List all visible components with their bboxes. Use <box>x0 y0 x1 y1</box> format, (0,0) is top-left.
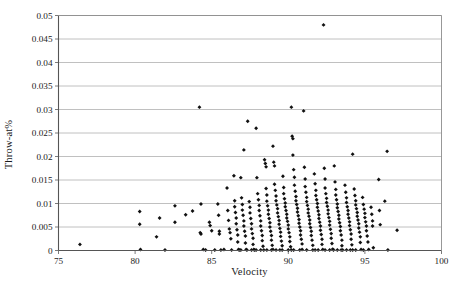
data-point <box>227 227 231 231</box>
data-point <box>294 195 298 199</box>
data-point <box>335 202 339 206</box>
data-point <box>233 199 237 203</box>
data-point <box>333 180 337 184</box>
data-point <box>240 196 244 200</box>
data-point <box>232 174 236 178</box>
data-point <box>285 212 289 216</box>
data-point <box>320 237 324 241</box>
data-point <box>299 233 303 237</box>
data-point <box>158 216 162 220</box>
data-point <box>355 207 359 211</box>
x-axis-tick-labels: 7580859095100 <box>54 256 449 266</box>
data-point <box>274 194 278 198</box>
data-point <box>338 221 342 225</box>
data-point <box>263 158 267 162</box>
data-point <box>314 194 318 198</box>
y-tick-label: 0.005 <box>32 222 53 232</box>
data-point <box>312 172 316 176</box>
data-point <box>385 149 389 153</box>
data-point <box>261 244 265 248</box>
data-point <box>353 194 357 198</box>
data-point <box>235 228 239 232</box>
data-point <box>355 210 359 214</box>
data-point <box>317 217 321 221</box>
data-point <box>305 200 309 204</box>
data-point <box>322 166 326 170</box>
data-point <box>358 230 362 234</box>
data-point <box>378 209 382 213</box>
data-point <box>138 210 142 214</box>
data-point <box>354 199 358 203</box>
data-point <box>272 160 276 164</box>
data-point <box>335 206 339 210</box>
data-point <box>248 205 252 209</box>
x-tick-label: 100 <box>435 256 449 266</box>
y-tick-label: 0.015 <box>32 175 53 185</box>
data-point <box>330 242 334 246</box>
data-point <box>283 197 287 201</box>
data-point <box>251 242 255 246</box>
data-point <box>265 193 269 197</box>
data-point <box>371 246 375 250</box>
data-point <box>268 225 272 229</box>
data-point <box>271 144 275 148</box>
data-point <box>217 213 221 217</box>
data-point <box>217 232 221 236</box>
grid-lines <box>59 16 442 228</box>
data-point <box>303 185 307 189</box>
data-point <box>395 228 399 232</box>
data-point <box>371 219 375 223</box>
data-point <box>199 202 203 206</box>
data-point <box>328 219 332 223</box>
data-point <box>265 199 269 203</box>
data-point <box>236 233 240 237</box>
data-point <box>358 235 362 239</box>
data-point <box>296 214 300 218</box>
data-point <box>315 198 319 202</box>
data-point <box>285 216 289 220</box>
plot-area: 00.0050.010.0150.020.0250.030.0350.040.0… <box>0 0 459 289</box>
data-point <box>286 223 290 227</box>
data-point <box>297 218 301 222</box>
data-point <box>251 236 255 240</box>
x-tick-label: 95 <box>360 256 370 266</box>
data-point <box>277 222 281 226</box>
y-tick-label: 0.03 <box>36 105 52 115</box>
data-point <box>307 214 311 218</box>
data-point <box>274 199 278 203</box>
y-tick-label: 0.035 <box>32 81 53 91</box>
data-point <box>304 190 308 194</box>
data-point <box>345 205 349 209</box>
data-point <box>259 219 263 223</box>
data-point <box>352 187 356 191</box>
data-point <box>234 222 238 226</box>
data-point <box>286 219 290 223</box>
data-point <box>226 209 230 213</box>
data-point <box>319 233 323 237</box>
data-point <box>349 237 353 241</box>
data-point <box>250 227 254 231</box>
data-point <box>315 202 319 206</box>
data-point <box>264 187 268 191</box>
data-point <box>364 229 368 233</box>
data-point <box>250 232 254 236</box>
data-point <box>279 230 283 234</box>
data-point <box>283 205 287 209</box>
data-point <box>277 218 281 222</box>
data-point <box>284 209 288 213</box>
data-point <box>317 213 321 217</box>
data-point <box>347 216 351 220</box>
data-point <box>264 165 268 169</box>
data-point <box>313 182 317 186</box>
data-point <box>276 207 280 211</box>
data-point <box>229 237 233 241</box>
data-point <box>257 203 261 207</box>
data-point <box>276 215 280 219</box>
data-point <box>315 205 319 209</box>
y-tick-label: 0 <box>48 246 53 256</box>
data-point <box>191 209 195 213</box>
data-point <box>254 126 258 130</box>
data-point <box>288 240 292 244</box>
data-point <box>228 231 232 235</box>
data-point <box>351 152 355 156</box>
